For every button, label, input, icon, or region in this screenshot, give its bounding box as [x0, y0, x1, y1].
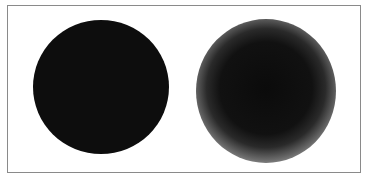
blurred-disc [196, 19, 336, 163]
sharp-disc [33, 20, 169, 154]
